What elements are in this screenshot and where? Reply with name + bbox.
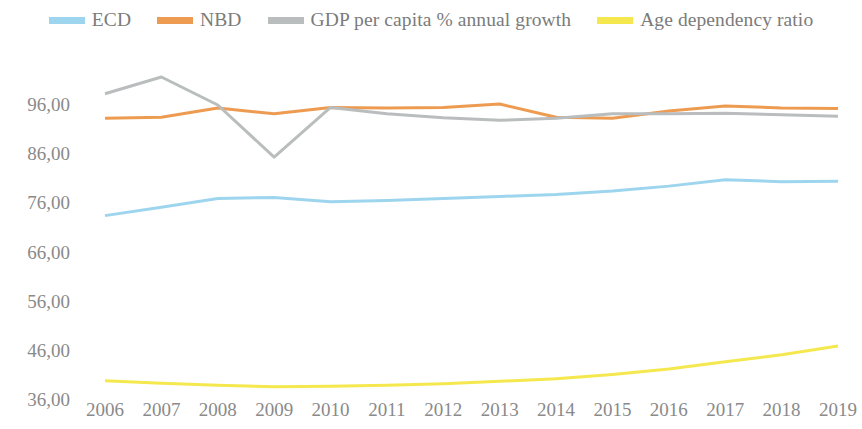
series-line-2 <box>105 77 838 157</box>
y-axis-tick-labels: 36,0046,0056,0066,0076,0086,0096,00 <box>0 40 78 429</box>
legend-color-swatch <box>268 17 304 24</box>
plot-lines-svg <box>0 40 862 429</box>
x-axis-tick-7: 2013 <box>481 398 519 422</box>
legend-item-1[interactable]: NBD <box>157 10 241 30</box>
series-line-0 <box>105 180 838 216</box>
y-axis-tick-1: 46,00 <box>27 341 70 361</box>
series-line-3 <box>105 346 838 387</box>
x-axis-tick-9: 2015 <box>593 398 631 422</box>
legend-item-0[interactable]: ECD <box>49 10 131 30</box>
legend-item-3[interactable]: Age dependency ratio <box>597 10 813 30</box>
x-axis-tick-10: 2016 <box>650 398 688 422</box>
line-chart: ECDNBDGDP per capita % annual growthAge … <box>0 0 862 429</box>
y-axis-tick-2: 56,00 <box>27 292 70 312</box>
legend-item-label: GDP per capita % annual growth <box>311 10 572 30</box>
x-axis-tick-2: 2008 <box>199 398 237 422</box>
series-line-1 <box>105 104 838 118</box>
legend-item-label: Age dependency ratio <box>640 10 813 30</box>
legend-item-label: NBD <box>200 10 241 30</box>
x-axis-tick-12: 2018 <box>763 398 801 422</box>
x-axis-tick-11: 2017 <box>706 398 744 422</box>
x-axis-tick-6: 2012 <box>424 398 462 422</box>
plot-area <box>0 40 862 429</box>
x-axis-tick-1: 2007 <box>142 398 180 422</box>
chart-legend: ECDNBDGDP per capita % annual growthAge … <box>0 0 862 40</box>
legend-color-swatch <box>157 17 193 24</box>
y-axis-tick-5: 86,00 <box>27 144 70 164</box>
x-axis-tick-5: 2011 <box>368 398 405 422</box>
y-axis-tick-4: 76,00 <box>27 193 70 213</box>
x-axis-tick-0: 2006 <box>86 398 124 422</box>
legend-item-2[interactable]: GDP per capita % annual growth <box>268 10 572 30</box>
y-axis-tick-6: 96,00 <box>27 95 70 115</box>
x-axis-tick-8: 2014 <box>537 398 575 422</box>
x-axis-tick-labels: 2006200720082009201020112012201320142015… <box>0 398 862 429</box>
x-axis-tick-4: 2010 <box>312 398 350 422</box>
legend-color-swatch <box>597 17 633 24</box>
y-axis-tick-3: 66,00 <box>27 243 70 263</box>
x-axis-tick-3: 2009 <box>255 398 293 422</box>
legend-color-swatch <box>49 17 85 24</box>
x-axis-tick-13: 2019 <box>819 398 857 422</box>
legend-item-label: ECD <box>92 10 131 30</box>
